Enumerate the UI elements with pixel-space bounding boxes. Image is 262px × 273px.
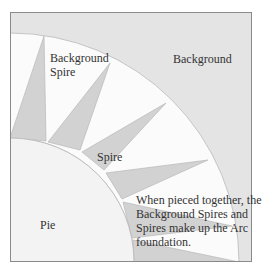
background-spire-label: Background Spire [50, 51, 109, 79]
arc-block-diagram: Background Background Spire Spire Pie Wh… [0, 0, 262, 273]
note-line-1: When pieced together, the [136, 193, 261, 207]
background-spire-label-line2: Spire [50, 65, 109, 79]
background-label-text: Background [173, 52, 232, 66]
spire-label: Spire [97, 150, 122, 164]
note-line-4: foundation. [136, 235, 261, 249]
background-label: Background [173, 52, 232, 66]
note-line-2: Background Spires and [136, 207, 261, 221]
foundation-note: When pieced together, the Background Spi… [136, 193, 261, 249]
pie-label: Pie [40, 218, 55, 232]
pie-label-text: Pie [40, 218, 55, 232]
spire-label-text: Spire [97, 150, 122, 164]
background-spire-label-line1: Background [50, 51, 109, 65]
note-line-3: Spires make up the Arc [136, 221, 261, 235]
